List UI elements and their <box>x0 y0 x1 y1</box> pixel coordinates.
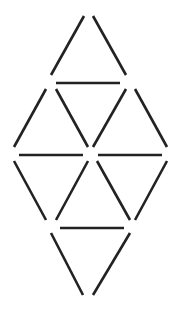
matchstick-5 <box>93 89 126 147</box>
matchstick-9 <box>14 161 46 220</box>
matchstick-15 <box>93 233 130 295</box>
matchstick-6 <box>135 89 167 147</box>
matchstick-triangle-diagram <box>0 0 181 314</box>
matchstick-3 <box>14 89 46 147</box>
matchstick-12 <box>135 161 167 220</box>
matchstick-11 <box>97 161 130 220</box>
matchstick-10 <box>56 161 88 220</box>
matchstick-14 <box>51 233 83 295</box>
matchstick-1 <box>93 16 126 75</box>
matchstick-4 <box>56 89 88 147</box>
matchstick-0 <box>51 16 84 75</box>
